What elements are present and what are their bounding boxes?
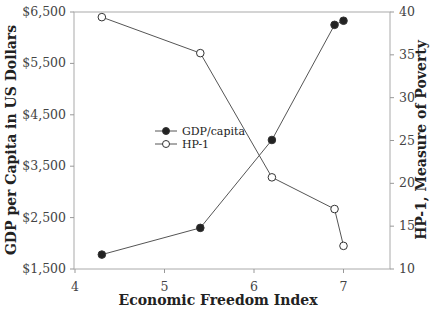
legend-filled-circle-icon — [163, 128, 170, 135]
dual-axis-line-chart: $1,500$2,500$3,500$4,500$5,500$6,500 101… — [0, 0, 435, 310]
x-tick-label: 4 — [71, 279, 79, 294]
y-tick-label: $3,500 — [22, 158, 66, 173]
plot-border — [74, 12, 390, 269]
legend-label: GDP/capita — [182, 125, 245, 138]
x-tick-label: 7 — [340, 279, 348, 294]
x-axis-title: Economic Freedom Index — [118, 292, 318, 308]
right-y-axis-title: HP-1, Measure of Poverty — [413, 39, 429, 240]
y-tick-label: $4,500 — [22, 107, 66, 122]
filled-circle-marker — [98, 251, 106, 259]
plot-frame — [74, 12, 390, 269]
y-tick-label: $2,500 — [22, 210, 66, 225]
right-y-axis-ticks: 10152025303540 — [390, 4, 415, 276]
y-tick-label: $6,500 — [22, 4, 66, 19]
left-y-axis-title: GDP per Capita in US Dollars — [3, 25, 19, 255]
filled-circle-marker — [268, 136, 276, 144]
y-tick-label: $1,500 — [22, 261, 66, 276]
legend: GDP/capitaHP-1 — [155, 125, 245, 151]
x-axis-ticks: 4567 — [71, 269, 348, 294]
y2-tick-label: 10 — [399, 261, 415, 276]
y-tick-label: $5,500 — [22, 55, 66, 70]
open-circle-marker — [98, 13, 106, 21]
legend-open-circle-icon — [163, 141, 170, 148]
open-circle-marker — [340, 242, 348, 250]
filled-circle-marker — [331, 21, 339, 29]
open-circle-marker — [331, 205, 339, 213]
y2-tick-label: 40 — [399, 4, 415, 19]
filled-circle-marker — [340, 17, 348, 25]
filled-circle-marker — [197, 224, 205, 232]
legend-label: HP-1 — [182, 138, 209, 151]
left-y-axis-ticks: $1,500$2,500$3,500$4,500$5,500$6,500 — [22, 4, 74, 276]
open-circle-marker — [268, 174, 276, 182]
open-circle-marker — [197, 49, 205, 57]
